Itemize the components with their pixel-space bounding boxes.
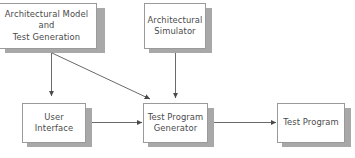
node-label-test-program: Test Program <box>281 117 341 129</box>
node-label-architectural-simulator: Architectural Simulator <box>145 15 204 38</box>
node-shadow-test-program <box>345 108 351 147</box>
node-shadow-bottom-user-interface <box>27 143 92 147</box>
node-architectural-simulator[interactable]: Architectural Simulator <box>144 3 206 49</box>
node-user-interface[interactable]: User Interface <box>22 103 86 143</box>
node-architectural-model-and-test-generation[interactable]: Architectural Model and Test Generation <box>0 3 97 49</box>
node-shadow-bottom-test-program-generator <box>148 143 214 147</box>
node-shadow-user-interface <box>86 108 92 147</box>
diagram-canvas: Architectural Model and Test Generation … <box>0 0 355 158</box>
node-label-user-interface: User Interface <box>33 112 75 135</box>
node-shadow-test-program-generator <box>208 108 214 147</box>
node-shadow-bottom-architectural-model <box>5 49 105 53</box>
node-shadow-architectural-simulator <box>206 8 212 53</box>
node-test-program[interactable]: Test Program <box>277 103 345 143</box>
node-label-architectural-model-and-test-generation: Architectural Model and Test Generation <box>3 9 90 44</box>
node-shadow-bottom-architectural-simulator <box>149 49 212 53</box>
node-test-program-generator[interactable]: Test Program Generator <box>143 103 208 143</box>
edge-model-to-generator <box>52 53 150 99</box>
node-label-test-program-generator: Test Program Generator <box>146 112 206 135</box>
node-shadow-bottom-test-program <box>282 143 351 147</box>
node-shadow-architectural-model <box>97 8 105 53</box>
